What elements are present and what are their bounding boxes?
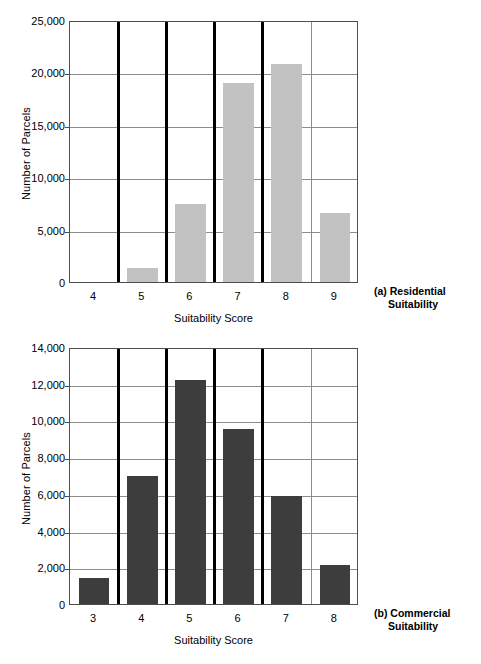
bar-7 xyxy=(223,83,254,282)
panel-caption-a-line2: Suitability xyxy=(374,298,446,311)
y-tick-label: 0 xyxy=(59,278,65,289)
y-tick-mark xyxy=(65,496,70,497)
y-tick-label: 12,000 xyxy=(31,379,65,390)
y-tick-label: 15,000 xyxy=(31,120,65,131)
x-tick-label: 4 xyxy=(90,290,96,302)
y-tick-label: 10,000 xyxy=(31,416,65,427)
x-tick-label: 7 xyxy=(235,290,241,302)
y-tick-mark xyxy=(65,533,70,534)
y-tick-mark xyxy=(65,386,70,387)
bar-9 xyxy=(320,213,351,282)
bar-6 xyxy=(223,429,254,604)
panel-commercial: Number of Parcels 02,0004,0006,0008,0001… xyxy=(0,332,481,664)
x-tick-label: 5 xyxy=(186,612,192,624)
panel-caption-b-line2: Suitability xyxy=(374,620,450,633)
x-tick-label: 8 xyxy=(331,612,337,624)
x-tick-label: 8 xyxy=(283,290,289,302)
x-tick-label: 6 xyxy=(186,290,192,302)
x-axis-title-a: Suitability Score xyxy=(69,312,358,324)
figure-suitability-histograms: Number of Parcels 05,00010,00015,00020,0… xyxy=(0,0,481,664)
group-separator xyxy=(213,22,216,282)
group-separator xyxy=(165,22,168,282)
panel-caption-a: (a) Residential Suitability xyxy=(374,285,446,311)
y-tick-mark xyxy=(65,569,70,570)
bar-8 xyxy=(271,64,302,282)
bar-3 xyxy=(79,578,110,604)
group-separator xyxy=(165,349,168,604)
y-tick-mark xyxy=(65,127,70,128)
bar-8 xyxy=(320,565,351,604)
bar-5 xyxy=(175,380,206,604)
y-tick-label: 20,000 xyxy=(31,68,65,79)
x-tick-label: 4 xyxy=(138,612,144,624)
bar-7 xyxy=(271,496,302,604)
y-tick-label: 8,000 xyxy=(37,453,65,464)
y-tick-label: 10,000 xyxy=(31,173,65,184)
bar-5 xyxy=(127,268,158,282)
bar-6 xyxy=(175,204,206,282)
y-tick-label: 6,000 xyxy=(37,489,65,500)
group-separator xyxy=(117,349,120,604)
y-tick-mark xyxy=(65,74,70,75)
y-tick-label: 2,000 xyxy=(37,563,65,574)
group-separator xyxy=(261,349,264,604)
panel-caption-b: (b) Commercial Suitability xyxy=(374,607,450,633)
group-separator xyxy=(261,22,264,282)
panel-caption-a-line1: (a) Residential xyxy=(374,285,446,297)
plot-area-residential xyxy=(69,21,358,283)
y-tick-label: 0 xyxy=(59,600,65,611)
y-tick-mark xyxy=(65,232,70,233)
y-tick-label: 4,000 xyxy=(37,526,65,537)
y-tick-label: 25,000 xyxy=(31,16,65,27)
vertical-gridline xyxy=(311,22,312,282)
panel-residential: Number of Parcels 05,00010,00015,00020,0… xyxy=(0,0,481,332)
x-tick-label: 7 xyxy=(283,612,289,624)
x-axis-title-b: Suitability Score xyxy=(69,634,358,646)
bar-4 xyxy=(127,476,158,605)
y-tick-mark xyxy=(65,422,70,423)
y-tick-label: 14,000 xyxy=(31,343,65,354)
y-tick-mark xyxy=(65,179,70,180)
y-axis-ticks-a: 05,00010,00015,00020,00025,000 xyxy=(13,21,65,283)
panel-caption-b-line1: (b) Commercial xyxy=(374,607,450,619)
y-tick-label: 5,000 xyxy=(37,225,65,236)
x-tick-label: 3 xyxy=(90,612,96,624)
vertical-gridline xyxy=(311,349,312,604)
x-tick-label: 9 xyxy=(331,290,337,302)
y-tick-mark xyxy=(65,459,70,460)
x-tick-label: 6 xyxy=(235,612,241,624)
x-tick-label: 5 xyxy=(138,290,144,302)
group-separator xyxy=(213,349,216,604)
y-axis-ticks-b: 02,0004,0006,0008,00010,00012,00014,000 xyxy=(13,348,65,605)
group-separator xyxy=(117,22,120,282)
plot-area-commercial xyxy=(69,348,358,605)
